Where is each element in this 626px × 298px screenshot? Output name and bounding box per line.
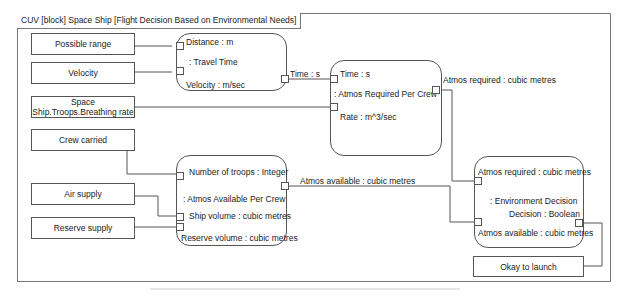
param-atmos-available: Atmos available : cubic metres: [478, 228, 593, 238]
input-air-supply[interactable]: Air supply: [31, 183, 135, 205]
input-velocity[interactable]: Velocity: [31, 62, 135, 84]
input-breathing-rate[interactable]: Space Ship.Troops.Breathing rate: [31, 96, 135, 118]
connector-label-time: Time : s: [290, 69, 320, 79]
port-velocity[interactable]: [176, 67, 184, 75]
port-decision-out[interactable]: [575, 219, 583, 227]
param-reserve-volume: Reserve volume : cubic metres: [181, 233, 298, 243]
param-decision: Decision : Boolean: [509, 209, 580, 219]
input-possible-range[interactable]: Possible range: [31, 33, 135, 55]
port-atmos-available-out[interactable]: [281, 182, 289, 190]
input-reserve-supply[interactable]: Reserve supply: [31, 217, 135, 239]
param-atmos-required: Atmos required : cubic metres: [478, 167, 591, 177]
input-label: Velocity: [68, 68, 97, 78]
port-atmos-required-in[interactable]: [474, 177, 482, 185]
input-label: Reserve supply: [54, 223, 113, 233]
port-troops[interactable]: [176, 172, 184, 180]
input-label: Air supply: [64, 189, 101, 199]
port-atmos-required-out[interactable]: [432, 86, 440, 94]
connector-atmosavail-decision: [289, 186, 474, 222]
connector-atmosreq-decision-2: [440, 90, 474, 181]
input-label: Possible range: [55, 39, 111, 49]
input-label: Space Ship.Troops.Breathing rate: [32, 97, 134, 117]
block-name: : Travel Time: [189, 57, 238, 67]
block-name: : Atmos Required Per Crew: [334, 89, 437, 99]
output-label: Okay to launch: [500, 262, 557, 272]
param-time: Time : s: [340, 69, 370, 79]
port-reserve-volume[interactable]: [176, 223, 184, 231]
connector-label-atmos-available: Atmos available : cubic metres: [300, 176, 415, 186]
param-distance: Distance : m: [186, 37, 233, 47]
port-time-out[interactable]: [281, 75, 289, 83]
port-time-in[interactable]: [330, 75, 338, 83]
port-distance[interactable]: [176, 42, 184, 50]
output-okay-to-launch[interactable]: Okay to launch: [473, 256, 584, 277]
block-name: : Environment Decision: [490, 196, 577, 206]
param-velocity: Velocity : m/sec: [186, 80, 245, 90]
block-name: : Atmos Available Per Crew: [183, 194, 285, 204]
connector-label-atmos-required: Atmos required : cubic metres: [443, 75, 556, 85]
connector-air-shipvolume: [135, 196, 177, 216]
port-atmos-available-in[interactable]: [474, 218, 482, 226]
port-rate[interactable]: [330, 103, 338, 111]
param-ship-volume: Ship volume : cubic metres: [189, 211, 291, 221]
input-crew-carried[interactable]: Crew carried: [31, 129, 135, 151]
input-label: Crew carried: [59, 135, 107, 145]
port-ship-volume[interactable]: [176, 213, 184, 221]
param-troops: Number of troops : Integer: [189, 167, 288, 177]
caption-cutoff: [150, 288, 460, 290]
param-rate: Rate : m^3/sec: [340, 112, 396, 122]
